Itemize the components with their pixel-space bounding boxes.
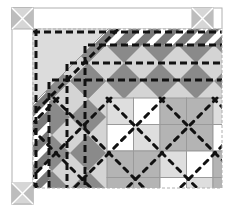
corner-block-top-right [192,8,213,29]
corner-block-bottom-left [12,183,33,204]
corner-block-top-left [12,8,33,29]
inner-field [0,27,244,208]
quilt-canvas [0,0,244,218]
quilt-diagram [0,0,244,218]
